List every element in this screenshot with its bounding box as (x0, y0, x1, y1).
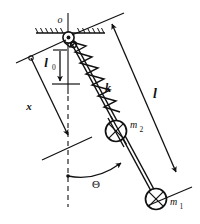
l-label: l (153, 86, 157, 101)
mass-2-subscript: 2 (140, 125, 144, 134)
dimension-x: x (16, 40, 92, 160)
l-arrow (112, 24, 176, 172)
coil-spring (72, 42, 120, 112)
l0-label: l (44, 55, 48, 70)
mass-1-label: m (170, 196, 177, 207)
angle-theta: Θ (66, 163, 121, 190)
l0-subscript: 0 (52, 63, 56, 72)
mass-1-subscript: 1 (180, 202, 184, 211)
theta-label: Θ (92, 178, 100, 190)
theta-origin-dot (66, 174, 70, 178)
theta-arc (68, 163, 121, 177)
x-lower-extension (42, 137, 92, 160)
spring-constant-group: k (105, 81, 111, 95)
pivot-label: o (58, 14, 63, 25)
mass-2-label: m (130, 119, 137, 130)
x-arrow (31, 58, 68, 135)
x-upper-extension (16, 40, 66, 63)
diagram-canvas: o k m 2 (0, 0, 200, 224)
spring-constant-label: k (105, 81, 111, 95)
spring-pendulum-diagram: o k m 2 (0, 0, 200, 224)
l-upper-extension (72, 13, 124, 35)
dimension-l0: l 0 (44, 50, 80, 84)
x-label: x (25, 100, 32, 112)
